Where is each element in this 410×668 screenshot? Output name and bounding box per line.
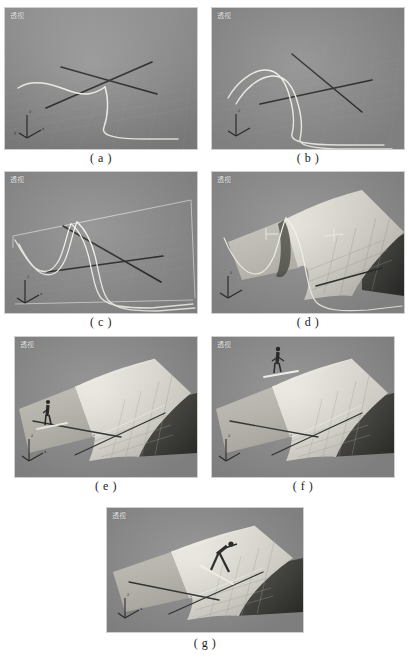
panel-caption-f: ( f ) [212,479,394,494]
viewport-panel-g[interactable]: z x 透视 [107,508,303,632]
viewport-scene-g: z x [107,508,303,632]
axis-label-z-c: z [27,274,29,279]
viewport-label-d: 透视 [217,176,230,184]
viewport-label-e: 透视 [20,341,33,349]
panel-caption-e: ( e ) [15,479,197,494]
panel-caption-c: ( c ) [5,315,197,330]
panel-caption-d: ( d ) [212,315,404,330]
viewport-panel-d[interactable]: z 透视 [212,172,404,313]
axis-label-z-e: z [31,433,33,438]
viewport-panel-e[interactable]: z x 透视 [15,337,197,477]
viewport-panel-b[interactable]: z 透视 [212,8,404,149]
skier-head-e [46,400,50,404]
viewport-label-g: 透视 [112,512,125,520]
axis-label-z-f: z [228,433,230,438]
viewport-scene-e: z x [15,337,197,477]
viewport-panel-f[interactable]: z 透视 [212,337,394,477]
viewport-label-f: 透视 [217,341,230,349]
skier-leg-left-f [274,363,275,373]
figure-sheet: z x y 透视 [0,0,410,668]
panel-caption-g: ( g ) [107,636,303,651]
panel-caption-a: ( a ) [5,151,197,166]
viewport-label-c: 透视 [10,176,23,184]
viewport-scene-b: z [212,8,404,149]
viewport-label-b: 透视 [217,12,230,20]
viewport-label-a: 透视 [10,12,23,20]
panel-caption-b: ( b ) [212,151,404,166]
skier-head-f [276,347,280,351]
skier-head-g [228,541,233,546]
axis-label-z-b: z [238,108,240,113]
axis-label-z-g: z [127,592,129,597]
viewport-scene-a: z x y [5,8,197,149]
viewport-panel-c[interactable]: z x 透视 [5,172,197,313]
viewport-scene-f: z [212,337,394,477]
skier-leg-left-e [45,415,46,425]
viewport-scene-c: z x [5,172,197,313]
axis-label-z-a: z [29,109,31,114]
viewport-panel-a[interactable]: z x y 透视 [5,8,197,149]
axis-label-z-d: z [230,270,232,275]
viewport-scene-d: z [212,172,404,313]
